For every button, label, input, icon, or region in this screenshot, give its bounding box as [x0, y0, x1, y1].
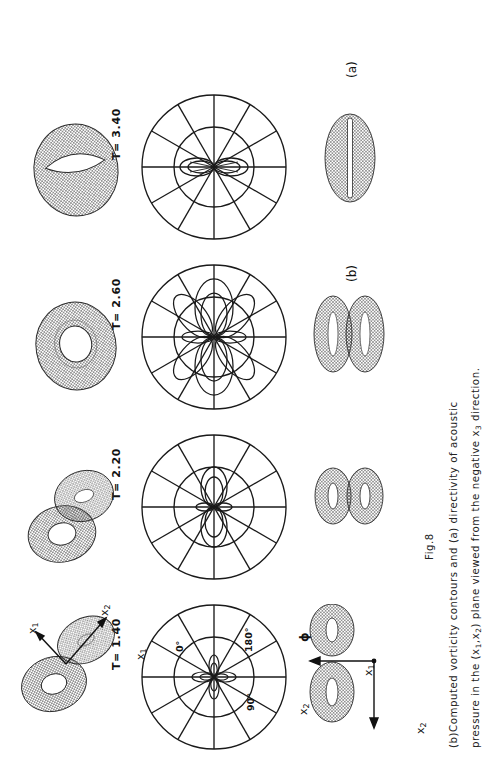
polar-plot-t260 — [139, 262, 289, 412]
vorticity-render-b-top — [314, 110, 386, 206]
caption-l2-sub-2: 2 — [474, 628, 483, 633]
axes-key-label-x2: x2 — [414, 722, 428, 734]
caption-l2-part-c: ,x — [470, 633, 481, 643]
polar-axis-label-x1: x1x1 — [134, 648, 148, 660]
vortex-x2-subscript: 2 — [103, 604, 112, 609]
caption-l2-sub-3: 3 — [474, 425, 483, 430]
axes-key-label-x1: x1 — [362, 664, 376, 676]
vorticity-render-t260 — [24, 288, 126, 400]
polar-angle-label-90: 90° — [245, 693, 256, 711]
panel-label-b: (b) — [345, 265, 359, 282]
polar-plot-t340 — [139, 92, 289, 242]
vorticity-render-b-lower — [312, 452, 386, 540]
caption-l2-part-g: direction. — [470, 368, 481, 425]
polar-plot-t140 — [139, 602, 289, 752]
polar-angle-label-0: 0° — [174, 641, 185, 652]
caption-l2-sub-1: 1 — [474, 643, 483, 648]
panel-label-a: (a) — [345, 61, 359, 78]
axes-key-x1-subscript: 1 — [367, 664, 376, 669]
figure-number: Fig.8 — [424, 533, 435, 560]
figure-page: T= 3.40 — [0, 0, 496, 760]
polar-plot-t220 — [139, 432, 289, 582]
vorticity-render-t340 — [26, 112, 124, 230]
vortex-x1-subscript: 1 — [31, 622, 40, 627]
axes-key-diagram — [300, 604, 396, 736]
vorticity-render-t220 — [22, 452, 126, 574]
vorticity-render-b-mid — [310, 288, 388, 380]
figure-caption-line-1: (b)Computed vorticity contours and (a) d… — [448, 401, 459, 748]
vortex-axis-label-x2-t140: x2 — [98, 604, 112, 616]
caption-l2-part-e: ) plane viewed from the negative x — [470, 430, 481, 628]
polar-angle-label-180: 180° — [243, 627, 254, 652]
caption-l2-part-a: pressure in the (x — [470, 648, 481, 748]
polar-axis-x1-subscript: 1 — [139, 648, 148, 653]
figure-caption-line-2: pressure in the (x1,x2) plane viewed fro… — [470, 368, 483, 748]
axes-key-x2-subscript: 2 — [419, 722, 428, 727]
vortex-axis-label-x1-t140: x1 — [26, 622, 40, 634]
